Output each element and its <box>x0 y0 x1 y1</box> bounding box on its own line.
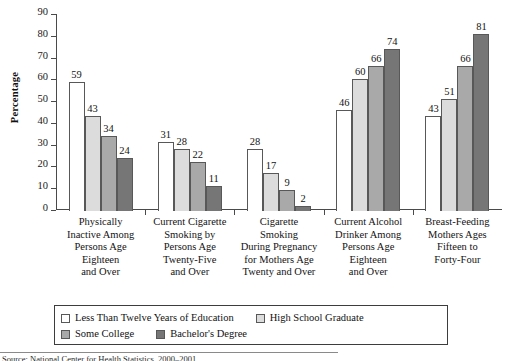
category-label-line: for Mothers Age <box>228 254 329 267</box>
legend-label: Bachelor's Degree <box>170 328 247 340</box>
footer-divider <box>0 352 338 353</box>
bar <box>336 110 352 211</box>
y-tick-label: 70 <box>24 50 48 61</box>
bar <box>473 34 489 211</box>
y-axis-line <box>56 14 57 210</box>
legend-swatch-icon <box>61 330 70 339</box>
bar <box>368 66 384 211</box>
category-label-line: Smoking <box>228 229 329 242</box>
y-tick-mark <box>51 145 56 146</box>
y-axis-title: Percentage <box>9 53 20 143</box>
category-label-line: Eighteen <box>50 254 151 267</box>
plot-area: 0102030405060708090 59433424312822112817… <box>56 14 502 210</box>
legend-row-1: Less Than Twelve Years of Education High… <box>61 310 441 326</box>
legend-label: High School Graduate <box>270 312 364 324</box>
category-label-line: Twenty and Over <box>228 266 329 279</box>
bar-value-label: 59 <box>63 69 91 80</box>
bar-value-label: 28 <box>241 136 269 147</box>
y-tick-label: 40 <box>24 115 48 126</box>
bar-chart-figure: Percentage 0102030405060708090 594334243… <box>0 0 507 361</box>
legend-swatch-icon <box>256 314 265 323</box>
category-label-line: and Over <box>139 266 240 279</box>
bar <box>69 82 85 211</box>
legend-swatch-icon <box>61 314 70 323</box>
bar <box>117 158 133 211</box>
bar <box>206 186 222 211</box>
y-tick-mark <box>51 123 56 124</box>
x-axis-separator-tick <box>413 210 414 215</box>
legend-row-2: Some College Bachelor's Degree <box>61 326 441 342</box>
bar <box>190 162 206 211</box>
y-tick-label: 50 <box>24 93 48 104</box>
category-label-line: Current Cigarette <box>139 216 240 229</box>
category-label-line: Current Alcohol <box>318 216 419 229</box>
category-label-line: Persons Age <box>318 241 419 254</box>
category-label-line: Inactive Among <box>50 229 151 242</box>
bar <box>247 149 263 211</box>
category-label-line: Persons Age <box>50 241 151 254</box>
x-axis-category-label: PhysicallyInactive AmongPersons AgeEight… <box>50 216 151 279</box>
x-axis-category-label: CigaretteSmokingDuring Pregnancyfor Moth… <box>228 216 329 279</box>
x-axis-separator-tick <box>234 210 235 215</box>
x-axis-category-label: Current CigaretteSmoking byPersons AgeTw… <box>139 216 240 279</box>
bar-value-label: 22 <box>184 149 212 160</box>
bar <box>384 49 400 211</box>
bar-value-label: 43 <box>79 103 107 114</box>
y-tick-label: 10 <box>24 180 48 191</box>
bar-value-label: 28 <box>168 136 196 147</box>
bar-value-label: 81 <box>467 21 495 32</box>
bar <box>441 99 457 211</box>
x-axis-separator-tick <box>324 210 325 215</box>
category-label-line: Breast-Feeding <box>407 216 507 229</box>
category-label-line: Forty-Four <box>407 254 507 267</box>
bar <box>158 142 174 211</box>
bar-value-label: 24 <box>111 145 139 156</box>
y-tick-mark <box>51 188 56 189</box>
category-label-line: During Pregnancy <box>228 241 329 254</box>
y-tick-mark <box>51 79 56 80</box>
y-tick-mark <box>51 36 56 37</box>
legend-label: Some College <box>75 328 134 340</box>
y-tick-label: 20 <box>24 158 48 169</box>
category-label-line: and Over <box>318 266 419 279</box>
legend-label: Less Than Twelve Years of Education <box>75 312 234 324</box>
category-label-line: Drinker Among <box>318 229 419 242</box>
bar-value-label: 9 <box>273 177 301 188</box>
category-label-line: Cigarette <box>228 216 329 229</box>
legend-item-high-school-graduate: High School Graduate <box>256 312 364 324</box>
x-axis-category-label: Breast-FeedingMothers AgesFifteen toFort… <box>407 216 507 266</box>
bar-value-label: 34 <box>95 123 123 134</box>
bar-value-label: 74 <box>378 36 406 47</box>
chart-legend: Less Than Twelve Years of Education High… <box>54 305 448 345</box>
legend-item-bachelors-degree: Bachelor's Degree <box>156 328 247 340</box>
y-tick-label: 90 <box>24 6 48 17</box>
x-axis-separator-tick <box>145 210 146 215</box>
category-label-line: and Over <box>50 266 151 279</box>
y-tick-label: 0 <box>24 202 48 213</box>
category-label-line: Eighteen <box>318 254 419 267</box>
y-tick-mark <box>51 58 56 59</box>
category-label-line: Persons Age <box>139 241 240 254</box>
y-tick-mark <box>51 166 56 167</box>
y-tick-label: 80 <box>24 28 48 39</box>
y-tick-label: 30 <box>24 137 48 148</box>
bar <box>425 116 441 211</box>
category-label-line: Smoking by <box>139 229 240 242</box>
legend-item-some-college: Some College <box>61 328 134 340</box>
y-tick-label: 60 <box>24 71 48 82</box>
category-label-line: Physically <box>50 216 151 229</box>
y-tick-mark <box>51 210 56 211</box>
bar-value-label: 11 <box>200 173 228 184</box>
x-axis-category-label: Current AlcoholDrinker AmongPersons AgeE… <box>318 216 419 279</box>
category-label-line: Mothers Ages <box>407 229 507 242</box>
source-note: Source: National Center for Health Stati… <box>2 354 342 361</box>
bar <box>295 206 311 211</box>
legend-swatch-icon <box>156 330 165 339</box>
y-tick-mark <box>51 101 56 102</box>
bar-value-label: 17 <box>257 160 285 171</box>
legend-item-less-than-twelve-years: Less Than Twelve Years of Education <box>61 312 234 324</box>
bar <box>457 66 473 211</box>
bar-value-label: 2 <box>289 193 317 204</box>
y-tick-mark <box>51 14 56 15</box>
bar <box>352 79 368 211</box>
